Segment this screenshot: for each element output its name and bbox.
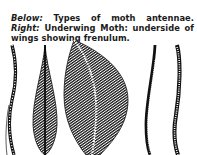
antennae-illustration [0, 0, 197, 155]
antenna-simple-icon [6, 45, 15, 155]
antenna-serrate-icon [175, 45, 180, 155]
antenna-filiform-icon [146, 45, 155, 155]
antenna-plumose-icon [64, 40, 128, 155]
antenna-bipectinate-icon [33, 45, 57, 155]
